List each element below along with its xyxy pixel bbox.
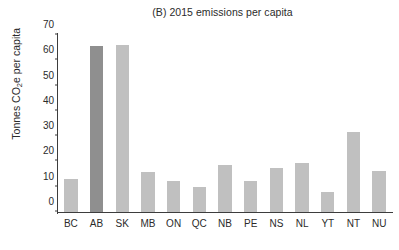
bar-group: PE xyxy=(238,35,264,212)
bar-group: SK xyxy=(109,35,135,212)
x-axis-tick-label: NB xyxy=(218,218,232,229)
bar-group: NB xyxy=(212,35,238,212)
bar-group: AB xyxy=(84,35,110,212)
x-axis-tick-label: MB xyxy=(140,218,155,229)
y-axis-title-subscript: 2 xyxy=(15,83,24,87)
x-axis-line xyxy=(57,212,393,213)
y-axis-title-suffix: e per capita xyxy=(10,28,22,83)
x-axis-tick-label: NL xyxy=(296,218,309,229)
plot-area: 010203040506070BCABSKMBONQCNBPENSNLYTNTN… xyxy=(58,35,392,212)
x-axis-tick-label: BC xyxy=(64,218,78,229)
bar[interactable] xyxy=(372,171,385,212)
y-axis-title-prefix: Tonnes CO xyxy=(10,87,22,140)
bar-chart: (B) 2015 emissions per capita Tonnes CO2… xyxy=(0,0,399,250)
y-axis-tick-label: 50 xyxy=(43,69,54,80)
y-axis-tick-label: 70 xyxy=(43,19,54,30)
bar[interactable] xyxy=(347,132,360,212)
bar-group: ON xyxy=(161,35,187,212)
x-axis-tick-label: NT xyxy=(347,218,360,229)
bar-group: QC xyxy=(186,35,212,212)
bar-group: NU xyxy=(366,35,392,212)
bar[interactable] xyxy=(321,192,334,212)
y-axis-tick-label: 40 xyxy=(43,94,54,105)
x-axis-tick-label: PE xyxy=(244,218,257,229)
bar[interactable] xyxy=(141,172,154,212)
y-axis-tick-label: 10 xyxy=(43,170,54,181)
bar-group: YT xyxy=(315,35,341,212)
bar[interactable] xyxy=(90,46,103,212)
x-axis-tick-label: QC xyxy=(192,218,207,229)
chart-title: (B) 2015 emissions per capita xyxy=(0,6,399,18)
y-axis-tick-label: 30 xyxy=(43,120,54,131)
bar[interactable] xyxy=(116,45,129,212)
bar-group: MB xyxy=(135,35,161,212)
x-axis-tick-label: SK xyxy=(116,218,129,229)
y-axis-tick-label: 60 xyxy=(43,44,54,55)
x-axis-tick-label: ON xyxy=(166,218,181,229)
x-axis-tick-label: NU xyxy=(372,218,386,229)
bar[interactable] xyxy=(167,181,180,212)
x-axis-tick-label: NS xyxy=(269,218,283,229)
y-axis-tick-label: 20 xyxy=(43,145,54,156)
bar-group: NL xyxy=(289,35,315,212)
y-axis-title: Tonnes CO2e per capita xyxy=(10,4,24,164)
bar-group: BC xyxy=(58,35,84,212)
bar-group: NT xyxy=(341,35,367,212)
bar[interactable] xyxy=(64,179,77,212)
bar[interactable] xyxy=(218,165,231,212)
bar-group: NS xyxy=(264,35,290,212)
bar[interactable] xyxy=(270,168,283,212)
x-axis-tick-label: YT xyxy=(321,218,334,229)
y-axis-tick-label: 0 xyxy=(48,196,54,207)
bar[interactable] xyxy=(295,163,308,212)
bar[interactable] xyxy=(244,181,257,212)
bar[interactable] xyxy=(193,187,206,212)
x-axis-tick-label: AB xyxy=(90,218,103,229)
